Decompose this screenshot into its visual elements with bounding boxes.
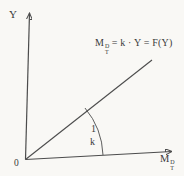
x-axis-m-symbol: M: [160, 153, 169, 164]
demand-line: [26, 60, 153, 160]
x-axis-m-scripts: DT: [170, 160, 174, 171]
equation-m-symbol: M: [95, 37, 104, 48]
slope-denominator: k: [90, 137, 95, 147]
transactions-money-demand-diagram: Y 0 MDT= k · Y = F(Y) MDT 1 k: [0, 0, 184, 176]
x-axis-line: [26, 152, 173, 160]
y-axis-line: [26, 13, 30, 160]
diagram-canvas: [0, 0, 184, 176]
y-axis-label: Y: [9, 9, 17, 20]
equation-subscript: T: [105, 50, 109, 56]
equation-rest: = k · Y = F(Y): [112, 37, 173, 48]
origin-label: 0: [14, 159, 19, 169]
equation-m-scripts: DT: [105, 44, 110, 55]
slope-numerator: 1: [91, 124, 96, 134]
demand-equation: MDT= k · Y = F(Y): [95, 38, 172, 55]
x-axis-label: MDT: [160, 154, 175, 171]
x-axis-subscript: T: [170, 166, 174, 172]
